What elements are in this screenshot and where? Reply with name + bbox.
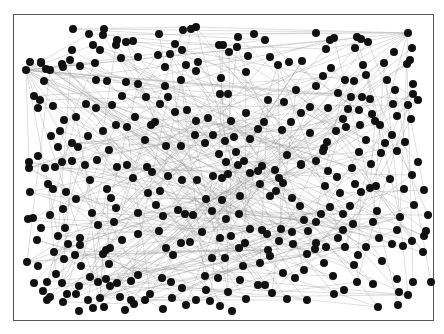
graph-node (274, 61, 282, 69)
graph-node (143, 163, 151, 171)
graph-node (68, 46, 76, 54)
graph-node (192, 296, 200, 304)
graph-node (51, 163, 59, 171)
graph-node (25, 164, 33, 172)
graph-node (121, 306, 129, 314)
graph-node (394, 301, 402, 309)
graph-node (84, 132, 92, 140)
graph-node (162, 244, 170, 252)
graph-node (179, 26, 187, 34)
graph-node (389, 100, 397, 108)
graph-node (76, 241, 84, 249)
graph-node (312, 29, 320, 37)
graph-node (279, 269, 287, 277)
graph-node (260, 118, 268, 126)
graph-node (424, 211, 432, 219)
graph-node (266, 53, 274, 61)
graph-node (201, 272, 209, 280)
graph-node (234, 33, 242, 41)
graph-node (275, 237, 283, 245)
graph-node (414, 158, 422, 166)
graph-node (107, 194, 115, 202)
graph-node (186, 238, 194, 246)
graph-node (99, 127, 107, 135)
graph-node (112, 41, 120, 49)
graph-node (288, 228, 296, 236)
graph-node (298, 57, 306, 65)
graph-node (372, 182, 380, 190)
graph-node (54, 143, 62, 151)
graph-node (56, 127, 64, 135)
graph-node (422, 227, 430, 235)
graph-node (271, 166, 279, 174)
graph-node (383, 76, 391, 84)
graph-node (306, 129, 314, 137)
graph-node (181, 210, 189, 218)
graph-node (400, 185, 408, 193)
graph-node (388, 131, 396, 139)
graph-node (59, 63, 67, 71)
graph-node (167, 278, 175, 286)
graph-node (23, 258, 31, 266)
graph-node (131, 113, 139, 121)
graph-node (112, 204, 120, 212)
graph-node (341, 76, 349, 84)
graph-node (218, 196, 226, 204)
graph-node (288, 194, 296, 202)
graph-node (280, 98, 288, 106)
graph-node (144, 189, 152, 197)
graph-node (216, 302, 224, 310)
graph-node (244, 52, 252, 60)
graph-node (375, 234, 383, 242)
graph-node (366, 95, 374, 103)
graph-node (390, 48, 398, 56)
graph-node (427, 278, 435, 286)
graph-node (122, 78, 130, 86)
graph-node (122, 38, 130, 46)
graph-node (112, 121, 120, 129)
graph-node (69, 25, 77, 33)
graph-node (409, 80, 417, 88)
graph-node (202, 195, 210, 203)
graph-node (233, 43, 241, 51)
graph-node (362, 243, 370, 251)
graph-node (261, 36, 269, 44)
graph-node (156, 187, 164, 195)
graph-node (351, 44, 359, 52)
graph-node (407, 115, 415, 123)
graph-node (254, 281, 262, 289)
graph-node (103, 185, 111, 193)
graph-node (216, 234, 224, 242)
graph-node (161, 63, 169, 71)
graph-node (291, 274, 299, 282)
graph-node (198, 228, 206, 236)
graph-node (193, 176, 201, 184)
graph-node (141, 296, 149, 304)
graph-node (174, 206, 182, 214)
graph-node (169, 251, 177, 259)
graph-node (324, 167, 332, 175)
graph-node (420, 186, 428, 194)
graph-node (60, 116, 68, 124)
graph-node (208, 207, 216, 215)
graph-node (393, 226, 401, 234)
graph-node (26, 58, 34, 66)
graph-node (256, 180, 264, 188)
graph-node (141, 136, 149, 144)
graph-node (43, 278, 51, 286)
graph-node (29, 214, 37, 222)
graph-node (408, 171, 416, 179)
graph-node (46, 211, 54, 219)
graph-node (275, 174, 283, 182)
graph-node (377, 149, 385, 157)
graph-node (374, 303, 382, 311)
graph-node (266, 252, 274, 260)
graph-node (351, 180, 359, 188)
graph-node (100, 25, 108, 33)
graph-node (52, 270, 60, 278)
graph-node (350, 77, 358, 85)
graph-node (103, 77, 111, 85)
graph-node (340, 286, 348, 294)
graph-node (227, 117, 235, 125)
graph-node (76, 62, 84, 70)
